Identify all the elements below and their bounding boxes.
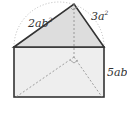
prism-diagram: 2ab2 3a2 5ab — [0, 0, 127, 115]
label-height: 5ab — [107, 66, 127, 79]
label-right-side: 3a2 — [91, 9, 109, 23]
